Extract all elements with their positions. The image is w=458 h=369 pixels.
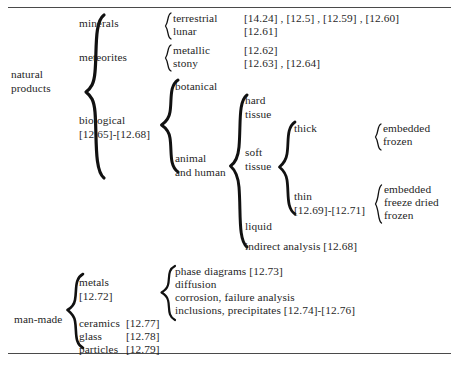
leaf-lunar: lunar <box>173 25 197 39</box>
refs-particles: [12.79] <box>126 343 160 357</box>
leaf-diffusion: diffusion <box>175 278 217 292</box>
leaf-stony: stony <box>173 57 198 71</box>
refs-glass: [12.78] <box>126 330 160 344</box>
node-animal-and-human: animal and human <box>175 152 226 179</box>
leaf-corrosion-failure-analysis: corrosion, failure analysis <box>175 291 295 305</box>
node-natural-products: natural products <box>11 68 51 95</box>
horizontal-rule-bottom <box>8 353 451 354</box>
refs-lunar: [12.61] <box>244 25 278 39</box>
refs-metallic: [12.62] <box>244 44 278 58</box>
leaf-hard-tissue: hard tissue <box>245 94 271 121</box>
node-meteorites: meteorites <box>79 51 127 65</box>
node-thin: thin [12.69]-[12.71] <box>294 190 365 217</box>
refs-terrestrial: [14.24] , [12.5] , [12.59] , [12.60] <box>244 12 399 26</box>
leaf-botanical: botanical <box>175 80 217 94</box>
brace-minerals <box>164 12 173 40</box>
figure-canvas: natural products minerals meteorites bio… <box>0 0 458 369</box>
brace-thick <box>374 123 383 151</box>
leaf-phase-diagrams: phase diagrams [12.73] <box>175 265 283 279</box>
node-man-made: man-made <box>14 313 62 327</box>
node-biological: biological [12.65]-[12.68] <box>79 114 150 141</box>
leaf-inclusions-precipitates: inclusions, precipitates [12.74]-[12.76] <box>175 304 355 318</box>
horizontal-rule-top <box>8 7 451 8</box>
brace-meteorites <box>164 44 173 72</box>
refs-stony: [12.63] , [12.64] <box>244 57 320 71</box>
brace-natural-products <box>84 12 110 182</box>
leaf-metals: metals [12.72] <box>79 276 113 303</box>
leaf-thick-embedded: embedded <box>383 122 430 136</box>
leaf-metallic: metallic <box>173 44 210 58</box>
brace-thin <box>374 184 384 224</box>
leaf-thin-embedded: embedded <box>384 183 431 197</box>
leaf-thin-frozen: frozen <box>384 209 413 223</box>
refs-ceramics: [12.77] <box>126 317 160 331</box>
leaf-particles: particles <box>79 343 118 357</box>
leaf-indirect-analysis: indirect analysis [12.68] <box>245 240 357 254</box>
node-soft-tissue: soft tissue <box>245 146 271 173</box>
leaf-ceramics: ceramics <box>79 317 120 331</box>
leaf-thin-freeze-dried: freeze dried <box>384 196 439 210</box>
leaf-thick-frozen: frozen <box>383 135 412 149</box>
leaf-terrestrial: terrestrial <box>173 12 217 26</box>
node-minerals: minerals <box>79 17 119 31</box>
leaf-glass: glass <box>79 330 102 344</box>
leaf-liquid: liquid <box>245 220 272 234</box>
node-thick: thick <box>294 122 317 136</box>
